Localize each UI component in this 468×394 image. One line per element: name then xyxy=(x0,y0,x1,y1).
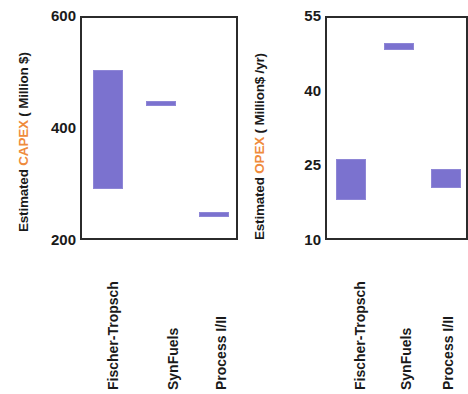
range-bar-fischer-tropsch xyxy=(336,159,366,200)
range-bar-process-i-ii xyxy=(199,212,229,217)
y-tick-label: 400 xyxy=(51,120,76,135)
y-tick-label: 40 xyxy=(304,83,321,98)
plot-area-opex xyxy=(325,16,468,240)
y-tick-label: 55 xyxy=(304,8,321,23)
x-tick-label-fischer-tropsch: Fischer-Tropsch xyxy=(105,281,121,390)
x-tick-label-fischer-tropsch: Fischer-Tropsch xyxy=(352,281,368,390)
range-bar-synfuels xyxy=(384,43,414,50)
y-axis-tick-labels-opex: 55 40 25 10 xyxy=(240,0,321,394)
y-axis-tick-labels-capex: 600 400 200 xyxy=(0,0,76,394)
range-bar-process-i-ii xyxy=(431,169,461,188)
y-tick-label: 600 xyxy=(51,8,76,23)
range-bar-synfuels xyxy=(146,101,176,106)
chart-panel-capex: Estimated CAPEX ( Million $) 600 400 200… xyxy=(0,0,240,394)
x-tick-label-process-i-ii: Process I/II xyxy=(440,316,456,390)
x-tick-label-synfuels: SynFuels xyxy=(398,328,414,390)
figure-root: Estimated CAPEX ( Million $) 600 400 200… xyxy=(0,0,468,394)
y-tick-label: 10 xyxy=(304,232,321,247)
x-tick-label-synfuels: SynFuels xyxy=(165,328,181,390)
x-tick-label-process-i-ii: Process I/II xyxy=(213,316,229,390)
y-tick-label: 25 xyxy=(304,157,321,172)
y-tick-label: 200 xyxy=(51,232,76,247)
plot-area-capex xyxy=(80,16,238,240)
chart-panel-opex: Estimated OPEX ( Million$ /yr) 55 40 25 … xyxy=(240,0,468,394)
range-bar-fischer-tropsch xyxy=(93,70,123,189)
